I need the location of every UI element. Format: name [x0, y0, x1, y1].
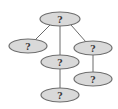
edge-root-right: [71, 25, 86, 42]
node-label: ?: [25, 42, 30, 52]
tree-node-right: ?: [74, 41, 112, 55]
tree-node-middle: ?: [41, 55, 79, 69]
tree-node-right-child: ?: [74, 72, 112, 86]
node-label: ?: [57, 58, 62, 68]
tree-diagram: ??????: [0, 0, 118, 109]
edge-root-left: [35, 25, 50, 40]
tree-node-root: ?: [40, 12, 80, 26]
node-label: ?: [90, 44, 95, 54]
nodes: ??????: [9, 12, 112, 102]
node-label: ?: [90, 75, 95, 85]
node-label: ?: [57, 15, 62, 25]
tree-node-left: ?: [9, 39, 47, 53]
node-label: ?: [57, 91, 62, 101]
tree-node-middle-child: ?: [41, 88, 79, 102]
